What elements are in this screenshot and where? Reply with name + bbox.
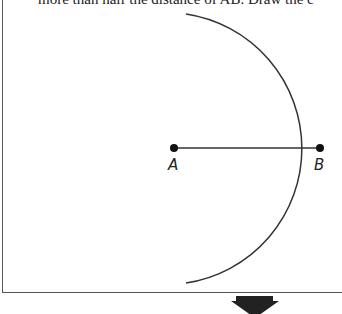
down-arrow-icon	[231, 296, 279, 314]
point-a	[170, 144, 178, 152]
label-b: B	[314, 156, 324, 174]
point-b	[316, 144, 324, 152]
label-a: A	[167, 156, 178, 174]
